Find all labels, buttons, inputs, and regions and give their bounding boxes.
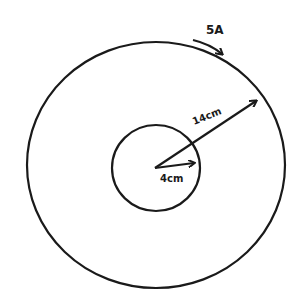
inner-radius-label: 4cm <box>160 173 183 184</box>
diagram-canvas: 5A 14cm 4cm <box>0 0 301 306</box>
outer-circle <box>27 42 285 288</box>
outer-radius-label: 14cm <box>191 105 223 127</box>
current-label: 5A <box>206 23 224 37</box>
